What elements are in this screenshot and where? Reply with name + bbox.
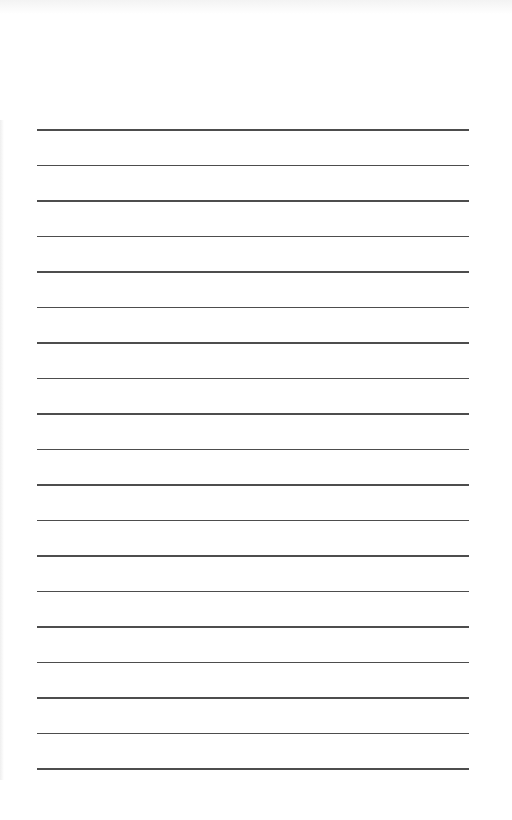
ruled-line [37,626,469,628]
ruled-line [37,484,469,486]
ruled-line [37,378,469,380]
left-scan-edge [0,120,4,780]
ruled-line [37,307,469,309]
ruled-line [37,200,469,202]
ruled-line [37,449,469,451]
ruled-line [37,236,469,238]
ruled-line [37,129,469,131]
ruled-line [37,662,469,664]
ruled-line [37,413,469,415]
ruled-line [37,768,469,770]
top-scan-bleed [0,0,512,14]
ruled-line [37,591,469,593]
ruled-line [37,733,469,735]
ruled-line [37,555,469,557]
ruled-line [37,271,469,273]
ruled-line [37,520,469,522]
ruled-line [37,697,469,699]
lined-paper-page [0,0,512,820]
ruled-line [37,342,469,344]
ruled-line [37,165,469,167]
